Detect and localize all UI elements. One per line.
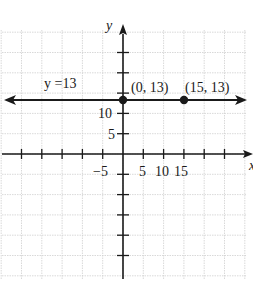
point-15-13 xyxy=(180,96,188,104)
x-axis-label: x xyxy=(248,158,253,173)
y-axis-label: y xyxy=(104,18,113,33)
x-tick-label-10: 10 xyxy=(155,164,169,179)
y-tick-label-5: 5 xyxy=(108,127,115,142)
y-tick-label-10: 10 xyxy=(98,106,112,121)
line-equation-label: y =13 xyxy=(44,76,76,91)
point-0-13 xyxy=(119,96,127,104)
x-axis: x xyxy=(2,149,253,173)
x-tick-label-15: 15 xyxy=(174,164,188,179)
y-axis: y xyxy=(104,18,129,279)
point-0-13-label: (0, 13) xyxy=(131,80,169,96)
coordinate-plane: x y −5 5 10 15 10 5 y =13 (0, 13) (15, 1… xyxy=(0,0,253,291)
point-15-13-label: (15, 13) xyxy=(185,80,230,96)
x-tick-label-neg5: −5 xyxy=(93,164,108,179)
x-tick-label-5: 5 xyxy=(139,164,146,179)
